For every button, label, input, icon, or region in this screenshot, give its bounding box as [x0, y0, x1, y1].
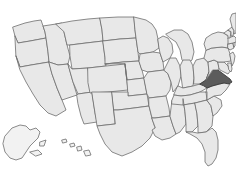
state-ND[interactable] [100, 17, 136, 41]
state-WY[interactable] [70, 41, 106, 69]
state-CO[interactable] [88, 64, 128, 93]
state-AR[interactable] [149, 96, 170, 118]
state-AK[interactable] [3, 125, 46, 160]
state-IN[interactable] [180, 60, 194, 88]
state-HI[interactable] [62, 139, 91, 156]
us-map-svg [0, 0, 236, 174]
state-MO[interactable] [144, 70, 171, 98]
state-FL[interactable] [186, 128, 218, 166]
state-MN[interactable] [134, 17, 159, 54]
us-map-container [0, 0, 236, 174]
state-SD[interactable] [103, 38, 139, 64]
